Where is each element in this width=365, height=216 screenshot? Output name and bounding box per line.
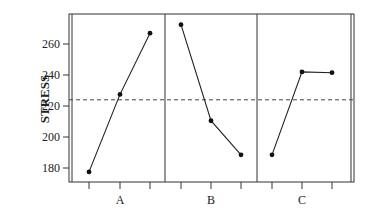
data-point xyxy=(330,70,335,75)
panel-label: C xyxy=(298,193,306,207)
panel-label: A xyxy=(116,193,125,207)
factor-panels: ABC xyxy=(87,22,335,207)
plot-frame xyxy=(69,14,354,182)
y-tick-label: 200 xyxy=(42,130,60,144)
data-point xyxy=(148,31,153,36)
y-axis-title: STRESS xyxy=(37,75,52,123)
panel-a: A xyxy=(87,31,153,207)
data-point xyxy=(300,70,305,75)
y-tick-label: 260 xyxy=(42,37,60,51)
effect-line xyxy=(272,72,332,155)
data-point xyxy=(239,152,244,157)
panel-c: C xyxy=(270,70,335,208)
panel-b: B xyxy=(179,22,244,207)
panel-label: B xyxy=(207,193,215,207)
y-tick-label: 180 xyxy=(42,161,60,175)
data-point xyxy=(118,92,123,97)
effect-line xyxy=(181,25,241,155)
main-effects-chart: 180200220240260 STRESS ABC xyxy=(0,0,365,216)
effect-line xyxy=(89,33,150,172)
data-point xyxy=(87,169,92,174)
data-point xyxy=(209,118,214,123)
data-point xyxy=(270,152,275,157)
data-point xyxy=(179,22,184,27)
